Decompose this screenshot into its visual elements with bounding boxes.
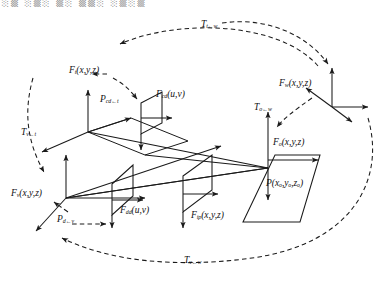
label-frame-t: Ft(x,y,z) [69,66,99,76]
frame-v-args: (x,y,z) [19,188,42,198]
arc-v-from-w [62,118,373,263]
proj-cd-t-sub: cd←t [106,98,119,104]
label-frame-v: Fv(x,y,z) [11,189,42,199]
label-tf-v-w: Tv←w [184,256,201,266]
frame-axes-group [36,68,368,231]
tf-o-w-sub: o←w [259,106,271,112]
label-frame-w: Fw(x,y,z) [279,79,311,89]
axes-frame-v [36,155,145,231]
label-frame-o: Fo(x,y,z) [273,138,304,148]
label-frame-cd: Fcd(u,v) [156,90,185,100]
diagram-canvas [0,0,391,291]
frame-cd-args: (u,v) [167,89,185,99]
label-point-P: P(xₒ,yₒ,zₒ) [266,179,303,189]
label-frame-ip: Fip(x,y,z) [191,211,224,221]
arc-t-from-w-right [222,22,328,64]
label-tf-v-t: Tv←t [21,128,36,138]
tf-v-t-sub: v←t [26,131,36,137]
frame-t-args: (x,y,z) [76,65,99,75]
axes-frame-w [306,68,368,122]
proj-d-v-sub: d←v [63,218,74,224]
label-proj-cd-t: Pcd←t [100,95,118,105]
frame-ip-args: (x,y,z) [201,210,224,220]
point-P-args: (xₒ,yₒ,zₒ) [272,178,303,188]
arc-o-from-w [277,98,312,127]
image-plane-dd [112,165,143,228]
arc-t-from-w [120,28,318,66]
label-proj-d-v: Pd←v [57,215,74,225]
projection-rays [66,132,268,198]
label-tf-o-w: To←w [254,103,272,113]
label-frame-dd: Fdd(u,v) [120,206,149,216]
frame-w-args: (x,y,z) [289,78,312,88]
tf-t-w-sub: t←w [206,23,217,29]
frame-o-args: (x,y,z) [282,137,305,147]
tf-v-w-sub: v←w [189,259,201,265]
transform-arcs-group [28,22,373,263]
arc-v-from-t [28,78,44,172]
frame-dd-args: (u,v) [132,205,150,215]
label-tf-t-w: Tt←w [201,20,217,30]
image-plane-cd [141,92,172,150]
